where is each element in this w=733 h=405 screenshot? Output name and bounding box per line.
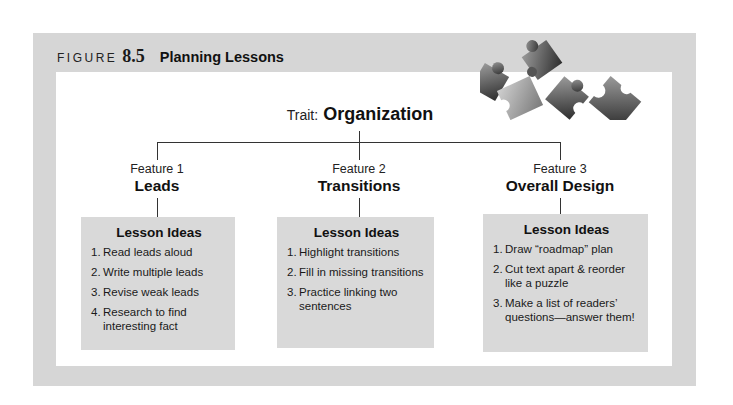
feature-name: Transitions	[289, 177, 429, 195]
feature-number: Feature 3	[480, 162, 640, 176]
lesson-ideas-list: 1.Draw “roadmap” plan 2.Cut text apart &…	[493, 242, 640, 324]
list-item: 2.Write multiple leads	[91, 265, 227, 279]
list-item: 3.Revise weak leads	[91, 285, 227, 299]
box-title: Lesson Ideas	[91, 225, 227, 240]
trait-value: Organization	[323, 104, 433, 124]
lesson-ideas-box-2: Lesson Ideas 1.Highlight transitions 2.F…	[277, 217, 434, 348]
trait-heading: Trait: Organization	[240, 104, 480, 125]
box-title: Lesson Ideas	[493, 222, 640, 237]
list-item: 2.Cut text apart & reorder like a puzzle	[493, 262, 640, 290]
lesson-ideas-box-1: Lesson Ideas 1.Read leads aloud 2.Write …	[81, 217, 235, 350]
feature-number: Feature 1	[97, 162, 217, 176]
list-item: 1.Draw “roadmap” plan	[493, 242, 640, 256]
trait-label: Trait:	[287, 107, 318, 123]
feature-stem-2	[359, 198, 360, 217]
lesson-ideas-list: 1.Highlight transitions 2.Fill in missin…	[287, 245, 426, 313]
branch-line-2	[359, 142, 360, 160]
list-item: 3.Make a list of readers’ questions—answ…	[493, 296, 640, 324]
feature-name: Leads	[97, 177, 217, 195]
figure-label: FIGURE	[57, 51, 117, 65]
lesson-ideas-list: 1.Read leads aloud 2.Write multiple lead…	[91, 245, 227, 333]
figure-title: Planning Lessons	[160, 49, 284, 65]
branch-line-1	[157, 142, 158, 160]
feature-stem-1	[157, 198, 158, 217]
feature-name: Overall Design	[480, 177, 640, 195]
feature-3-heading: Feature 3 Overall Design	[480, 162, 640, 195]
list-item: 2.Fill in missing transitions	[287, 265, 426, 279]
feature-1-heading: Feature 1 Leads	[97, 162, 217, 195]
feature-2-heading: Feature 2 Transitions	[289, 162, 429, 195]
list-item: 4.Research to find interesting fact	[91, 305, 227, 333]
feature-stem-3	[560, 198, 561, 214]
list-item: 1.Highlight transitions	[287, 245, 426, 259]
figure-caption: FIGURE 8.5 Planning Lessons	[57, 46, 284, 68]
box-title: Lesson Ideas	[287, 225, 426, 240]
list-item: 3.Practice linking two sentences	[287, 285, 426, 313]
lesson-ideas-box-3: Lesson Ideas 1.Draw “roadmap” plan 2.Cut…	[483, 214, 648, 352]
list-item: 1.Read leads aloud	[91, 245, 227, 259]
figure-number: 8.5	[122, 46, 145, 67]
feature-number: Feature 2	[289, 162, 429, 176]
branch-line-3	[560, 142, 561, 160]
puzzle-pieces-icon	[480, 20, 680, 120]
